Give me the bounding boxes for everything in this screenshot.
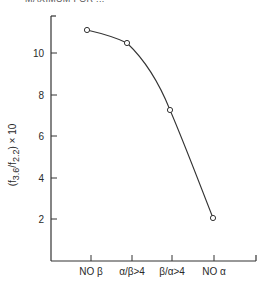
x-tick-label: β/α>4 xyxy=(159,266,185,277)
y-tick-label: 2 xyxy=(38,214,44,225)
data-point-marker xyxy=(167,107,172,112)
data-point-marker xyxy=(84,27,89,32)
data-point-marker xyxy=(210,215,215,220)
data-points xyxy=(84,27,215,220)
y-ticks: 2 4 6 8 10 xyxy=(33,48,57,225)
y-axis-label: (f3.6/f2.2) × 10 xyxy=(7,123,21,186)
y-tick-label: 6 xyxy=(38,131,44,142)
chart-canvas: 2 4 6 8 10 NO β α/β>4 β/α>4 NO α (f3.6/f… xyxy=(0,0,266,281)
x-tick-label: NO α xyxy=(202,266,226,277)
y-tick-label: 10 xyxy=(33,48,45,59)
data-line xyxy=(87,30,213,218)
y-tick-label: 8 xyxy=(38,90,44,101)
data-point-marker xyxy=(124,40,129,45)
x-tick-label: NO β xyxy=(79,266,103,277)
x-tick-label: α/β>4 xyxy=(119,266,145,277)
y-tick-label: 4 xyxy=(38,173,44,184)
x-ticks: NO β α/β>4 β/α>4 NO α xyxy=(79,255,226,277)
